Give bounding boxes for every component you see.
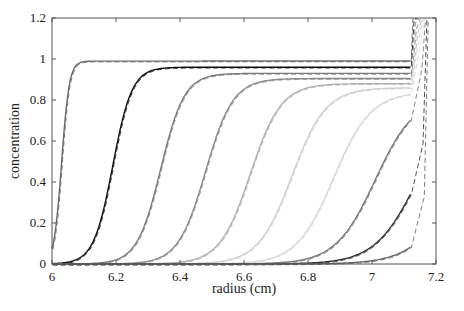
data-curve <box>53 19 425 265</box>
model-curve <box>52 88 410 264</box>
x-tick-label: 7 <box>369 269 376 284</box>
x-tick-label: 7.2 <box>428 269 444 284</box>
x-axis-label: radius (cm) <box>212 281 276 297</box>
data-curve <box>53 19 421 265</box>
y-tick-label: 0.2 <box>30 215 46 230</box>
model-curve <box>52 67 410 264</box>
data-curve <box>53 19 423 265</box>
x-tick-label: 6 <box>49 269 56 284</box>
y-tick-label: 0 <box>40 256 47 271</box>
model-curve <box>52 61 410 249</box>
y-tick-label: 1.2 <box>30 10 46 25</box>
data-curve <box>53 19 418 265</box>
model-curve <box>52 79 410 265</box>
x-tick-label: 6.4 <box>172 269 189 284</box>
plot-frame <box>52 18 436 264</box>
y-tick-label: 0.8 <box>30 92 46 107</box>
data-curve <box>53 19 422 265</box>
model-curve <box>52 84 410 264</box>
y-tick-label: 0.6 <box>30 133 47 148</box>
model-curve <box>52 73 410 264</box>
data-curve <box>53 19 428 265</box>
y-axis-label: concentration <box>7 103 22 179</box>
curves-group <box>52 19 428 265</box>
data-curve <box>53 19 427 265</box>
sedimentation-chart: 66.26.46.66.877.200.20.40.60.811.2 radiu… <box>0 0 464 311</box>
y-tick-label: 0.4 <box>30 174 47 189</box>
data-curve <box>53 19 426 265</box>
model-curve <box>52 95 410 265</box>
x-tick-label: 6.2 <box>108 269 124 284</box>
data-curve <box>53 19 419 265</box>
x-tick-label: 6.8 <box>300 269 316 284</box>
model-curve <box>52 120 410 264</box>
y-tick-label: 1 <box>40 51 47 66</box>
